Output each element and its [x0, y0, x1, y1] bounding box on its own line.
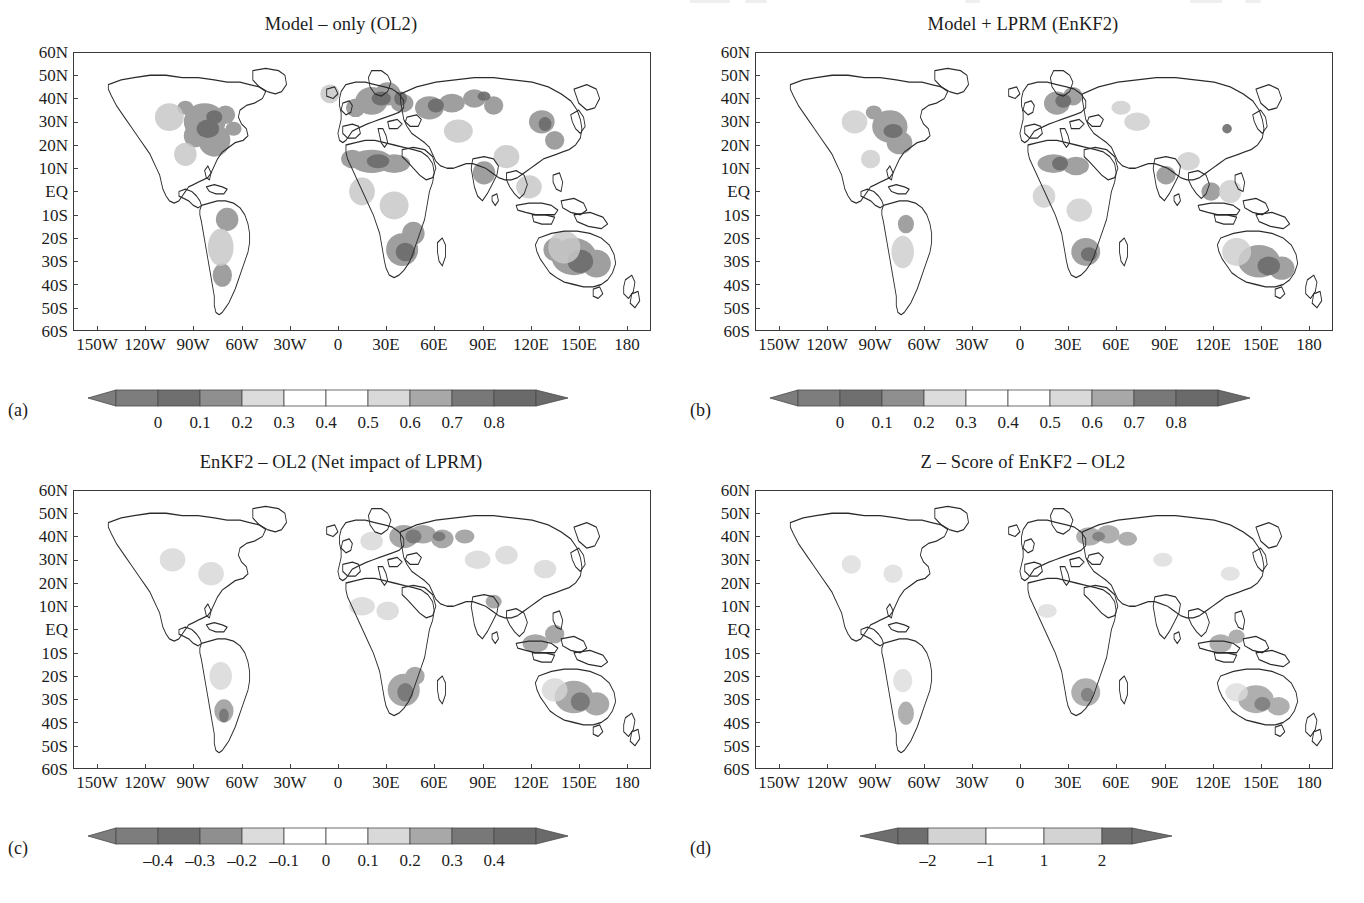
y-tick-label: 60N: [721, 482, 750, 499]
colorbar-tick-label: 0.1: [357, 852, 378, 869]
x-tick-label: 60W: [907, 774, 940, 791]
x-tick-label: 120E: [513, 774, 549, 791]
panel-b-map: [755, 52, 1333, 331]
x-tick-label: 150W: [758, 336, 800, 353]
panel-d-letter: (d): [690, 838, 711, 859]
x-tick-label: 30W: [955, 336, 988, 353]
y-tick-label: 10S: [42, 207, 68, 224]
panel-a-y-axis: 60N 50N 40N 30N 20N 10N EQ 10S 20S 30S 4…: [0, 52, 68, 331]
x-tick-label: 120E: [1195, 774, 1231, 791]
y-tick-label: 10N: [39, 160, 68, 177]
colorbar-c-swatches: [88, 824, 568, 848]
x-tick-label: 90E: [1151, 774, 1178, 791]
panel-a-letter: (a): [8, 400, 28, 421]
panel-a: Model – only (OL2): [0, 14, 682, 444]
x-tick-label: 150W: [76, 336, 118, 353]
x-tick-label: 60E: [1102, 336, 1129, 353]
y-tick-label: 50N: [39, 505, 68, 522]
colorbar-tick-label: 0.8: [1165, 414, 1186, 431]
panel-a-title: Model – only (OL2): [0, 14, 682, 35]
y-tick-label: 20N: [721, 137, 750, 154]
colorbar-tick-label: –0.1: [269, 852, 299, 869]
y-tick-label: 20S: [42, 230, 68, 247]
colorbar-tick-label: 0.4: [483, 852, 504, 869]
y-tick-label: 50N: [721, 67, 750, 84]
panel-a-data-shading: [155, 82, 611, 287]
colorbar-tick-label: 1: [1040, 852, 1049, 869]
colorbar-tick-label: 0.5: [1039, 414, 1060, 431]
colorbar-c: –0.4 –0.3 –0.2 –0.1 0 0.1 0.2 0.3 0.4: [88, 824, 568, 872]
y-tick-label: 40S: [724, 277, 750, 294]
colorbar-tick-label: 0.5: [357, 414, 378, 431]
colorbar-tick-label: 0.8: [483, 414, 504, 431]
x-tick-label: 90E: [1151, 336, 1178, 353]
colorbar-tick-label: –0.3: [185, 852, 215, 869]
colorbar-d: –2 –1 1 2: [860, 824, 1172, 872]
x-tick-label: 180: [614, 336, 640, 353]
x-tick-label: 60E: [1102, 774, 1129, 791]
panel-d: Z – Score of EnKF2 – OL2: [682, 452, 1364, 882]
y-tick-label: 30S: [724, 253, 750, 270]
x-tick-label: 90W: [858, 336, 891, 353]
x-tick-label: 30E: [1054, 774, 1081, 791]
x-tick-label: 180: [614, 774, 640, 791]
x-tick-label: 150E: [561, 774, 597, 791]
x-tick-label: 180: [1296, 336, 1322, 353]
y-tick-label: 60S: [42, 323, 68, 340]
y-tick-label: 10S: [42, 645, 68, 662]
x-tick-label: 120W: [124, 336, 166, 353]
x-tick-label: 120E: [1195, 336, 1231, 353]
x-tick-label: 150W: [76, 774, 118, 791]
x-tick-label: 150E: [561, 336, 597, 353]
y-tick-label: 20N: [721, 575, 750, 592]
colorbar-tick-label: 0.7: [441, 414, 462, 431]
panel-b-y-axis: 60N 50N 40N 30N 20N 10N EQ 10S 20S 30S 4…: [682, 52, 750, 331]
y-tick-label: EQ: [45, 183, 68, 200]
x-tick-label: 30W: [273, 774, 306, 791]
panel-b-map-graphic: [755, 52, 1333, 331]
colorbar-tick-label: 0.4: [315, 414, 336, 431]
y-tick-label: 30S: [42, 691, 68, 708]
colorbar-a: 0 0.1 0.2 0.3 0.4 0.5 0.6 0.7 0.8: [88, 386, 568, 434]
y-tick-label: 10N: [721, 598, 750, 615]
y-tick-label: 20S: [42, 668, 68, 685]
y-tick-label: 30N: [721, 113, 750, 130]
x-tick-label: 90E: [469, 774, 496, 791]
y-tick-label: 40S: [42, 277, 68, 294]
colorbar-tick-label: 0.1: [189, 414, 210, 431]
y-tick-label: 20S: [724, 230, 750, 247]
x-tick-label: 0: [334, 336, 343, 353]
x-tick-label: 30W: [955, 774, 988, 791]
panel-d-map-graphic: [755, 490, 1333, 769]
x-tick-label: 150E: [1243, 336, 1279, 353]
panel-c-letter: (c): [8, 838, 28, 859]
panel-b-title: Model + LPRM (EnKF2): [682, 14, 1364, 35]
y-tick-label: 10N: [721, 160, 750, 177]
x-tick-label: 0: [334, 774, 343, 791]
x-tick-label: 30E: [1054, 336, 1081, 353]
x-tick-label: 90W: [176, 336, 209, 353]
y-tick-label: 40N: [721, 528, 750, 545]
x-tick-label: 60E: [420, 336, 447, 353]
x-tick-label: 60W: [907, 336, 940, 353]
x-tick-label: 150E: [1243, 774, 1279, 791]
x-tick-label: 0: [1016, 336, 1025, 353]
y-tick-label: EQ: [727, 183, 750, 200]
panel-d-coastlines: [790, 506, 1321, 752]
y-tick-label: 40N: [39, 90, 68, 107]
x-tick-label: 30E: [372, 774, 399, 791]
colorbar-tick-label: 0.3: [273, 414, 294, 431]
colorbar-tick-label: 0: [836, 414, 845, 431]
y-tick-label: 30N: [39, 113, 68, 130]
x-tick-label: 0: [1016, 774, 1025, 791]
figure-canvas: Model – only (OL2): [0, 0, 1364, 903]
y-tick-label: 30S: [724, 691, 750, 708]
colorbar-tick-label: 0: [322, 852, 331, 869]
panel-c: EnKF2 – OL2 (Net impact of LPRM): [0, 452, 682, 882]
y-tick-label: 30N: [39, 551, 68, 568]
x-tick-label: 90W: [176, 774, 209, 791]
x-tick-label: 150W: [758, 774, 800, 791]
colorbar-b-swatches: [770, 386, 1250, 410]
panel-c-y-axis: 60N 50N 40N 30N 20N 10N EQ 10S 20S 30S 4…: [0, 490, 68, 769]
x-tick-label: 90W: [858, 774, 891, 791]
